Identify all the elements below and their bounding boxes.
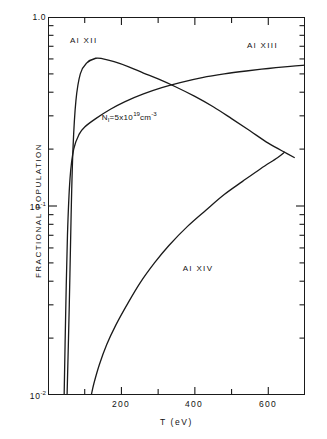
y-tick-label-1e-2: 10-2 xyxy=(30,389,46,401)
density-mid: =5x10 xyxy=(110,112,134,121)
density-unit-exp: -3 xyxy=(151,110,157,117)
plot-canvas xyxy=(48,17,305,395)
curve-al-xii xyxy=(67,58,295,395)
x-tick-label-600: 600 xyxy=(259,399,277,409)
curve-al-xiv xyxy=(91,152,284,395)
x-tick-label-200: 200 xyxy=(112,399,130,409)
density-exp: 19 xyxy=(133,110,140,117)
density-annotation: NI=5x1019cm-3 xyxy=(102,110,157,123)
figure-fractional-population: 1.0 10-1 10-2 200 400 600 T (eV) FRACTIO… xyxy=(0,0,327,439)
x-tick-label-400: 400 xyxy=(185,399,203,409)
x-axis-title: T (eV) xyxy=(48,417,305,427)
y-tick-exp: -2 xyxy=(40,389,46,396)
curve-label-al-xiii: Al XIII xyxy=(247,41,278,50)
y-tick-base: 10 xyxy=(30,391,41,401)
curve-label-al-xii: Al XII xyxy=(70,36,98,45)
density-unit: cm xyxy=(140,112,151,121)
y-axis-title: FRACTIONAL POPULATION xyxy=(34,121,43,301)
curve-label-al-xiv: Al XIV xyxy=(183,264,214,273)
y-tick-label-1.0: 1.0 xyxy=(32,12,46,22)
